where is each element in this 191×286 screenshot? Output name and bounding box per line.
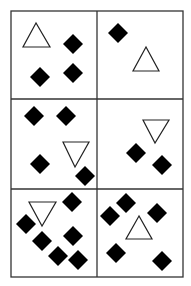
puzzle-grid-diagram (0, 0, 191, 286)
diagram-canvas (0, 0, 191, 286)
